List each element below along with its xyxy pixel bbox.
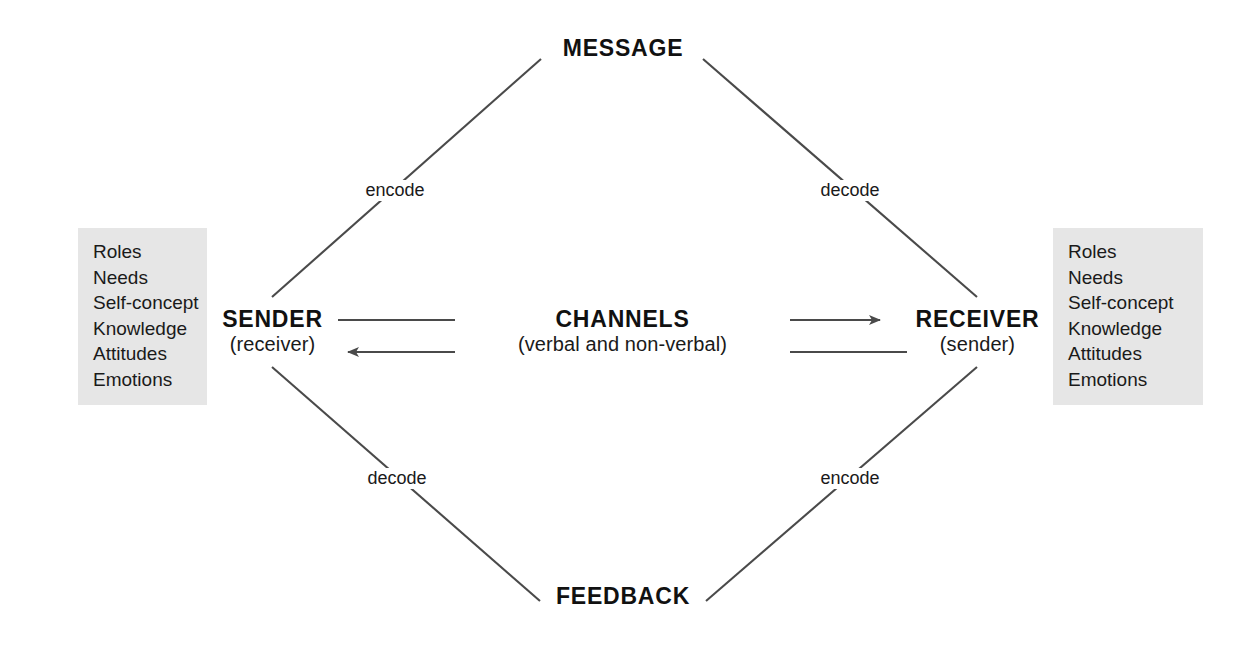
node-channels-sublabel: (verbal and non-verbal): [455, 333, 790, 357]
attribute-item: Roles: [93, 239, 199, 265]
attribute-item: Emotions: [93, 367, 199, 393]
edge-message-sender: [272, 59, 541, 297]
attribute-item: Attitudes: [93, 341, 199, 367]
edge-label-text: encode: [820, 468, 879, 488]
node-feedback-label: FEEDBACK: [556, 583, 690, 609]
edge-label-decode-bottom-left: decode: [332, 468, 462, 489]
node-receiver-label: RECEIVER: [885, 306, 1070, 333]
attributes-list-receiver: Roles Needs Self-concept Knowledge Attit…: [1068, 239, 1174, 392]
edge-message-receiver: [703, 59, 977, 297]
edge-label-text: encode: [365, 180, 424, 200]
communication-model-diagram: MESSAGE FEEDBACK SENDER (receiver) RECEI…: [0, 0, 1246, 657]
attribute-item: Attitudes: [1068, 341, 1174, 367]
attribute-item: Self-concept: [93, 290, 199, 316]
edge-label-encode-bottom-right: encode: [785, 468, 915, 489]
edge-label-text: decode: [820, 180, 879, 200]
edge-label-decode-top-right: decode: [785, 180, 915, 201]
attribute-item: Emotions: [1068, 367, 1174, 393]
attribute-item: Self-concept: [1068, 290, 1174, 316]
node-message: MESSAGE: [0, 35, 1246, 62]
node-feedback: FEEDBACK: [0, 583, 1246, 610]
attribute-item: Knowledge: [93, 316, 199, 342]
edge-label-text: decode: [367, 468, 426, 488]
attribute-item: Knowledge: [1068, 316, 1174, 342]
attribute-item: Needs: [93, 265, 199, 291]
node-receiver: RECEIVER (sender): [885, 306, 1070, 357]
node-sender-sublabel: (receiver): [190, 333, 355, 357]
node-channels: CHANNELS (verbal and non-verbal): [455, 306, 790, 357]
attributes-list-sender: Roles Needs Self-concept Knowledge Attit…: [93, 239, 199, 392]
edge-label-encode-top-left: encode: [330, 180, 460, 201]
node-message-label: MESSAGE: [563, 35, 684, 61]
node-sender: SENDER (receiver): [190, 306, 355, 357]
attribute-item: Needs: [1068, 265, 1174, 291]
node-channels-label: CHANNELS: [455, 306, 790, 333]
attribute-item: Roles: [1068, 239, 1174, 265]
node-receiver-sublabel: (sender): [885, 333, 1070, 357]
node-sender-label: SENDER: [190, 306, 355, 333]
